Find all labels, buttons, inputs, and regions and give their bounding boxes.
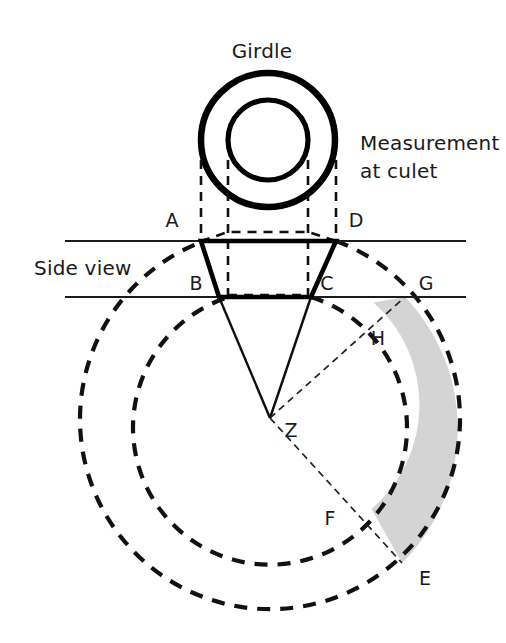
point-label-E: E: [419, 567, 431, 589]
point-label-D: D: [349, 209, 364, 231]
girdle-caption: Girdle: [232, 39, 293, 63]
point-label-F: F: [325, 507, 336, 529]
point-label-B: B: [189, 272, 202, 294]
girdle-inner-ring: [228, 100, 308, 180]
point-label-C: C: [320, 272, 333, 294]
measurement-caption-line1: Measurement: [360, 131, 500, 155]
diagram-canvas: Girdle Measurement at culet Side view A …: [0, 0, 506, 643]
side-view-caption: Side view: [34, 256, 131, 280]
point-label-H: H: [371, 327, 385, 349]
pavilion-edge-left: [219, 297, 270, 418]
crown-outline: [201, 241, 336, 297]
point-label-A: A: [166, 209, 179, 231]
diamond-measurement-diagram: Girdle Measurement at culet Side view A …: [0, 0, 506, 643]
point-label-Z: Z: [284, 419, 297, 441]
measurement-caption-line2: at culet: [360, 159, 437, 183]
inner-dashed-arc: [133, 297, 407, 565]
point-label-G: G: [419, 272, 434, 294]
girdle-outer-ring: [201, 73, 335, 207]
